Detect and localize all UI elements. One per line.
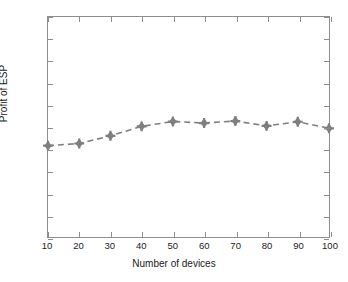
y-tick-mark	[48, 84, 53, 85]
x-tick-mark	[205, 232, 206, 237]
data-point-marker	[74, 139, 84, 149]
plot-area	[47, 16, 330, 238]
x-tick-label: 50	[167, 241, 178, 251]
x-axis-label: Number of devices	[0, 258, 348, 269]
y-tick-mark	[48, 195, 53, 196]
x-tick-mark	[111, 232, 112, 237]
y-tick-mark	[48, 150, 53, 151]
data-point-marker	[168, 117, 178, 127]
x-tick-mark	[111, 17, 112, 22]
series-line	[48, 121, 329, 146]
x-tick-label: 40	[136, 241, 147, 251]
x-tick-mark	[142, 232, 143, 237]
x-tick-mark	[142, 17, 143, 22]
data-point-marker	[105, 131, 115, 141]
x-tick-mark	[205, 17, 206, 22]
y-tick-mark	[324, 39, 329, 40]
x-tick-mark	[300, 17, 301, 22]
y-tick-mark	[324, 195, 329, 196]
y-tick-mark	[48, 61, 53, 62]
x-tick-mark	[300, 232, 301, 237]
x-tick-mark	[268, 232, 269, 237]
y-axis-label: Profit of ESP	[0, 44, 9, 144]
x-tick-label: 10	[42, 241, 53, 251]
y-tick-mark	[48, 39, 53, 40]
y-tick-mark	[324, 128, 329, 129]
y-tick-mark	[324, 217, 329, 218]
y-tick-mark	[324, 17, 329, 18]
y-tick-mark	[48, 128, 53, 129]
x-tick-label: 20	[73, 241, 84, 251]
y-tick-mark	[48, 172, 53, 173]
x-tick-mark	[79, 17, 80, 22]
x-tick-label: 100	[322, 241, 338, 251]
series-layer	[48, 17, 329, 237]
y-tick-mark	[324, 84, 329, 85]
data-point-marker	[199, 118, 209, 128]
x-tick-label: 90	[293, 241, 304, 251]
data-point-marker	[230, 116, 240, 126]
x-tick-mark	[174, 232, 175, 237]
x-tick-label: 80	[262, 241, 273, 251]
x-tick-label: 30	[105, 241, 116, 251]
x-tick-mark	[237, 17, 238, 22]
y-tick-mark	[324, 172, 329, 173]
data-point-marker	[137, 121, 147, 131]
y-tick-mark	[324, 61, 329, 62]
x-tick-mark	[331, 17, 332, 22]
y-tick-mark	[324, 150, 329, 151]
x-tick-mark	[48, 232, 49, 237]
x-tick-mark	[79, 232, 80, 237]
x-tick-mark	[237, 232, 238, 237]
data-point-marker	[43, 141, 53, 151]
y-tick-mark	[48, 106, 53, 107]
data-point-marker	[293, 117, 303, 127]
x-tick-mark	[48, 17, 49, 22]
x-tick-label: 60	[199, 241, 210, 251]
y-tick-mark	[48, 217, 53, 218]
y-tick-mark	[324, 106, 329, 107]
x-tick-mark	[174, 17, 175, 22]
data-point-marker	[262, 121, 272, 131]
x-tick-mark	[268, 17, 269, 22]
x-tick-label: 70	[230, 241, 241, 251]
chart-figure: 00.10.20.30.40.50.60.70.80.9110203040506…	[0, 0, 348, 282]
x-tick-mark	[331, 232, 332, 237]
